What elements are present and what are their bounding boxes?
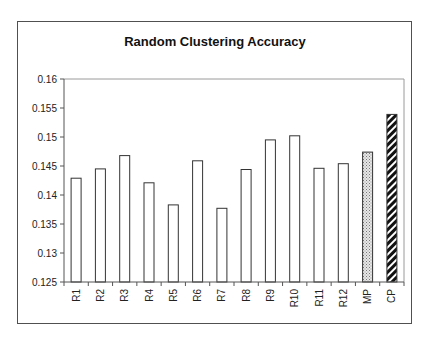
bar-r7 xyxy=(217,208,227,282)
x-axis: R1R2R3R4R5R6R7R8R9R10R11R12MPCP xyxy=(64,282,404,307)
y-tick-label: 0.15 xyxy=(38,132,58,143)
x-tick-label: R2 xyxy=(95,289,106,302)
bar-chart: 0.160.1550.150.1450.140.1350.130.125 R1R… xyxy=(0,0,430,344)
bar-r10 xyxy=(290,136,300,282)
bar-r1 xyxy=(71,178,81,282)
x-tick-label: R4 xyxy=(144,289,155,302)
x-tick-label: R10 xyxy=(289,289,300,308)
y-tick-label: 0.13 xyxy=(38,248,58,259)
x-tick-label: R9 xyxy=(265,289,276,302)
y-tick-label: 0.14 xyxy=(38,190,58,201)
bar-cp xyxy=(387,114,397,282)
bar-r8 xyxy=(241,170,251,283)
bars-group xyxy=(71,114,397,282)
bar-r6 xyxy=(193,161,203,282)
bar-r2 xyxy=(95,169,105,282)
bar-r5 xyxy=(168,205,178,282)
y-tick-label: 0.125 xyxy=(32,277,57,288)
y-tick-label: 0.135 xyxy=(32,219,57,230)
x-tick-label: R5 xyxy=(168,289,179,302)
x-tick-label: R8 xyxy=(241,289,252,302)
x-tick-label: R11 xyxy=(314,289,325,307)
plot-area-border xyxy=(64,79,404,282)
bar-r4 xyxy=(144,183,154,282)
x-tick-label: R1 xyxy=(71,289,82,302)
bar-r3 xyxy=(120,156,130,282)
bar-r12 xyxy=(338,164,348,282)
x-tick-label: R12 xyxy=(338,289,349,308)
x-tick-label: R7 xyxy=(216,289,227,302)
x-tick-label: MP xyxy=(362,289,373,304)
y-tick-label: 0.155 xyxy=(32,103,57,114)
y-tick-label: 0.145 xyxy=(32,161,57,172)
y-axis: 0.160.1550.150.1450.140.1350.130.125 xyxy=(32,74,64,288)
bar-r11 xyxy=(314,168,324,282)
x-tick-label: CP xyxy=(386,289,397,303)
bar-r9 xyxy=(265,140,275,282)
bar-mp xyxy=(363,152,373,282)
x-tick-label: R6 xyxy=(192,289,203,302)
y-tick-label: 0.16 xyxy=(38,74,58,85)
x-tick-label: R3 xyxy=(119,289,130,302)
